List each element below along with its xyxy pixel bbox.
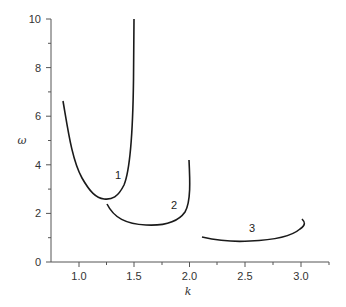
curve-3-label: 3 bbox=[249, 222, 255, 234]
x-axis-title: k bbox=[185, 285, 192, 298]
y-tick-label: 8 bbox=[35, 62, 41, 74]
chart: 0 2 4 6 8 10 1.0 1.5 2.0 2.5 3.0 k ω 1 2… bbox=[0, 0, 346, 307]
y-axis-title: ω bbox=[18, 134, 27, 147]
x-tick-label: 1.0 bbox=[71, 270, 86, 282]
x-tick-label: 2.5 bbox=[237, 270, 252, 282]
y-tick-label: 0 bbox=[35, 256, 41, 268]
y-ticks bbox=[46, 19, 51, 262]
y-tick-label: 10 bbox=[29, 13, 41, 25]
x-tick-label: 1.5 bbox=[126, 270, 141, 282]
x-tick-label: 3.0 bbox=[293, 270, 308, 282]
curve-2-label: 2 bbox=[171, 199, 177, 211]
x-tick-label: 2.0 bbox=[182, 270, 197, 282]
y-tick-label: 6 bbox=[35, 110, 41, 122]
y-tick-label: 2 bbox=[35, 207, 41, 219]
curve-1 bbox=[63, 19, 134, 199]
curve-1-label: 1 bbox=[115, 169, 121, 181]
y-tick-label: 4 bbox=[35, 159, 41, 171]
x-ticks bbox=[79, 262, 329, 267]
